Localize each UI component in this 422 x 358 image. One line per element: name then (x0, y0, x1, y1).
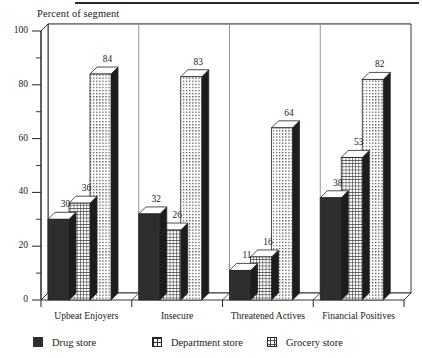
chart-canvas (0, 0, 422, 358)
chart-legend: Drug storeDepartment storeGrocery store (0, 333, 422, 355)
x-axis-category-label: Financial Positives (313, 310, 404, 321)
bar-front-face (320, 198, 341, 300)
bar-value-label: 83 (183, 58, 213, 67)
bar-value-label: 16 (253, 238, 283, 247)
x-axis-category-label: Upbeat Enjoyers (41, 310, 132, 321)
legend-item-label: Department store (171, 337, 243, 348)
bar-side-face (90, 196, 97, 300)
bar-side-face (272, 250, 279, 300)
bar-chart (0, 0, 422, 358)
y-axis-tick-label: 60 (2, 134, 28, 144)
bar-side-face (202, 70, 209, 300)
bar-value-label: 26 (162, 211, 192, 220)
x-axis-category-label: Insecure (132, 310, 223, 321)
y-axis-tick-label: 0 (2, 295, 28, 305)
bar-side-face (341, 191, 348, 300)
dotted-square-icon (267, 337, 277, 347)
y-axis-tick-label: 100 (2, 26, 28, 36)
legend-item-label: Drug store (52, 337, 96, 348)
x-axis-category-label: Threatened Actives (223, 310, 314, 321)
bar-side-face (362, 150, 369, 300)
bar-value-label: 32 (141, 195, 171, 204)
bar-value-label: 38 (323, 179, 353, 188)
bar-front-face (48, 219, 69, 300)
axis-ticks-group (32, 31, 41, 300)
y-axis-tick-label: 40 (2, 187, 28, 197)
legend-item[interactable]: Grocery store (267, 333, 343, 351)
legend-item[interactable]: Department store (152, 333, 243, 351)
bar-value-label: 84 (93, 55, 123, 64)
bar-front-face (230, 270, 251, 300)
bar-side-face (160, 207, 167, 300)
bar-value-label: 64 (274, 109, 304, 118)
bar-side-face (293, 121, 300, 300)
bar-value-label: 36 (72, 184, 102, 193)
legend-item[interactable]: Drug store (33, 333, 96, 351)
bar-value-label: 82 (365, 60, 395, 69)
bar-value-label: 11 (232, 251, 262, 260)
bar-side-face (383, 72, 390, 300)
legend-item-label: Grocery store (286, 337, 343, 348)
grid-hatch-square-icon (152, 337, 162, 347)
solid-dark-square-icon (33, 337, 43, 347)
bar-value-label: 53 (344, 138, 374, 147)
bar-side-face (181, 223, 188, 300)
bar-front-face (139, 214, 160, 300)
bar-value-label: 30 (51, 200, 81, 209)
bar-side-face (69, 212, 76, 300)
y-axis-tick-label: 80 (2, 80, 28, 90)
bar-side-face (111, 67, 118, 300)
y-axis-tick-label: 20 (2, 241, 28, 251)
